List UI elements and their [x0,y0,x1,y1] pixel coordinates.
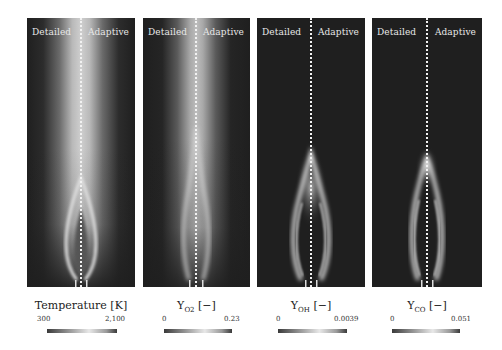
caption-main: Temperature [K] [35,299,127,312]
caption-unit: [−] [195,299,216,312]
label-detailed: Detailed [262,27,301,37]
colorbar-max-yoh: 0.0039 [334,315,359,323]
colorbar-min-temperature: 300 [37,315,50,323]
caption-subscript: O2 [184,306,194,314]
colorbar-min-yoh: 0 [276,315,280,323]
panel-yoh: Detailed Adaptive [257,18,365,287]
panel-yco: Detailed Adaptive [372,18,482,287]
colorbar-min-yo2: 0 [162,315,166,323]
comparison-divider [195,18,197,287]
caption-main: Y [291,299,298,312]
colorbar-yoh [278,329,347,333]
panel-yo2: Detailed Adaptive [143,18,250,287]
caption-yo2: YO2 [−] [143,299,250,314]
comparison-divider [310,18,312,287]
colorbar-yo2 [164,329,232,333]
comparison-divider [80,18,82,287]
panel-temperature: Detailed Adaptive [27,18,135,287]
caption-subscript: OH [298,306,310,314]
colorbar-yco [392,329,460,333]
label-adaptive: Adaptive [435,27,476,37]
colorbar-max-yo2: 0.23 [224,315,240,323]
label-adaptive: Adaptive [203,27,244,37]
comparison-divider [426,18,428,287]
caption-yoh: YOH [−] [257,299,365,314]
label-detailed: Detailed [148,27,187,37]
label-detailed: Detailed [32,27,71,37]
colorbar-temperature [47,329,117,333]
caption-subscript: CO [414,306,425,314]
caption-unit: [−] [310,299,331,312]
caption-temperature: Temperature [K] [27,299,135,312]
label-adaptive: Adaptive [318,27,359,37]
caption-yco: YCO [−] [372,299,482,314]
colorbar-max-temperature: 2,100 [105,315,125,323]
colorbar-max-yco: 0.051 [451,315,471,323]
caption-unit: [−] [426,299,447,312]
label-detailed: Detailed [377,27,416,37]
label-adaptive: Adaptive [88,27,129,37]
colorbar-min-yco: 0 [390,315,394,323]
